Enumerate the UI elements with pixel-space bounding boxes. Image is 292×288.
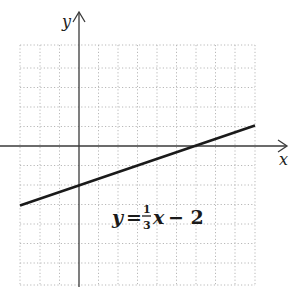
equation-equals: = [126, 206, 142, 228]
x-axis-label: x [279, 150, 288, 169]
equation-rest: − 2 [168, 206, 204, 228]
y-axis [73, 12, 85, 287]
equation-frac-den: 3 [143, 219, 151, 232]
y-axis-label: y [61, 12, 72, 31]
coordinate-plane: x y y = 1 3 x − 2 [0, 0, 292, 288]
equation-frac-num: 1 [143, 203, 151, 216]
equation-lhs: y [111, 206, 125, 228]
x-axis [0, 140, 287, 152]
equation-var: x [152, 206, 165, 228]
equation-label: y = 1 3 x − 2 [111, 203, 204, 232]
